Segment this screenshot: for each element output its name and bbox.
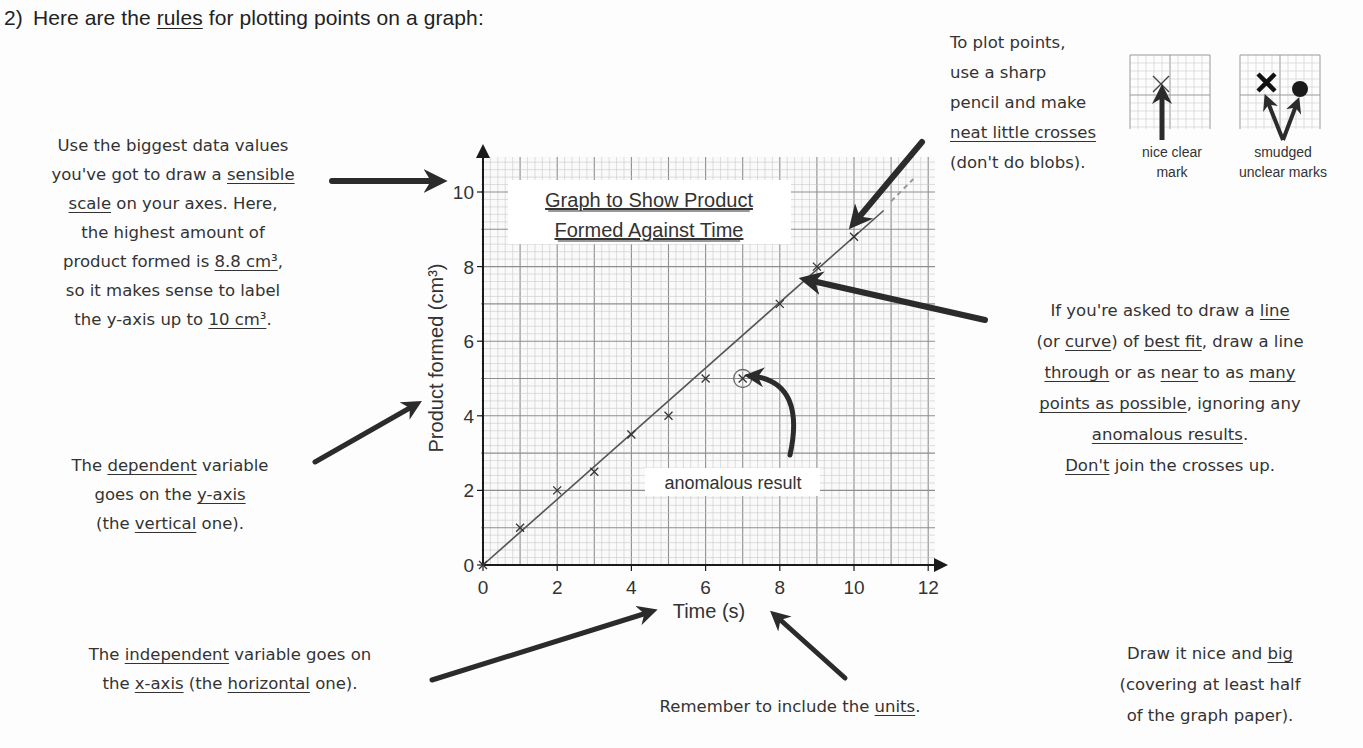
x-axis-label: Time (s): [673, 600, 746, 622]
example-grid-bad: [1240, 55, 1320, 129]
anomalous-label-box: anomalous result: [645, 468, 820, 496]
arrow-to-units: [776, 616, 845, 678]
product-vs-time-graph: Graph to Show ProductFormed Against Time…: [0, 0, 1363, 748]
x-tick-label: 6: [700, 577, 711, 598]
y-tick-label: 6: [463, 331, 474, 352]
x-tick-label: 8: [775, 577, 786, 598]
mark-example-label: nice clear: [1142, 144, 1202, 160]
anomalous-result-label: anomalous result: [664, 473, 801, 493]
chart-title-line: Graph to Show Product: [545, 189, 753, 211]
x-tick-label: 12: [918, 577, 939, 598]
arrow-to-y-label: [315, 405, 415, 462]
example-grid-good: [1130, 55, 1210, 129]
y-axis-label: Product formed (cm³): [425, 264, 447, 453]
clear-cross-mark: [1153, 76, 1169, 92]
x-tick-label: 4: [626, 577, 637, 598]
y-tick-label: 0: [463, 555, 474, 576]
mark-example-label: unclear marks: [1239, 164, 1327, 180]
x-tick-label: 10: [843, 577, 864, 598]
arrow-to-smudge: [1267, 100, 1283, 140]
smudged-cross-mark: [1258, 74, 1275, 91]
mark-example-label: mark: [1156, 164, 1188, 180]
arrow-to-x-label: [432, 612, 650, 680]
blob-mark: [1292, 81, 1308, 97]
x-tick-label: 0: [478, 577, 489, 598]
y-tick-label: 2: [463, 480, 474, 501]
x-axis-arrowhead: [934, 558, 948, 572]
y-tick-label: 10: [453, 182, 474, 203]
arrow-to-blob: [1283, 103, 1297, 140]
chart-title-box: Graph to Show ProductFormed Against Time: [508, 180, 791, 244]
y-axis-arrowhead: [476, 144, 490, 158]
y-tick-label: 4: [463, 406, 474, 427]
x-tick-label: 2: [552, 577, 563, 598]
chart-title-line: Formed Against Time: [555, 219, 744, 241]
y-tick-label: 8: [463, 257, 474, 278]
mark-examples: nice clearmarksmudgedunclear marks: [1130, 55, 1327, 180]
mark-example-label: smudged: [1254, 144, 1312, 160]
